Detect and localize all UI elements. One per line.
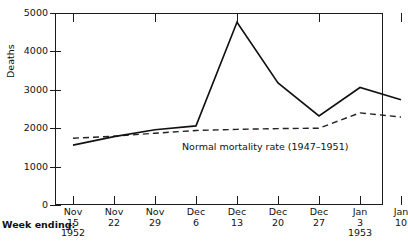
x-label-day: 10: [394, 218, 408, 229]
y-tick-0: [50, 205, 61, 206]
x-label-day: 27: [310, 218, 328, 229]
x-label-month: Nov: [105, 207, 124, 218]
normal-mortality-annotation: Normal mortality rate (1947–1951): [182, 141, 348, 152]
data-lines: [55, 13, 383, 205]
x-tick-label-4: Dec13: [228, 207, 246, 228]
x-label-year: 1952: [61, 228, 85, 239]
x-label-month: Nov: [61, 207, 85, 218]
x-tick-label-7: Jan31953: [348, 207, 372, 239]
y-tick-label-1000: 1000: [24, 162, 48, 172]
y-tick-label-2000: 2000: [24, 123, 48, 133]
x-label-year: 1953: [348, 228, 372, 239]
x-tick-top-8: [401, 13, 402, 22]
y-tick-label-4000: 4000: [24, 47, 48, 57]
plot-area: 010002000300040005000: [55, 13, 383, 205]
x-tick-label-8: Jan10: [394, 207, 408, 228]
x-label-day: 29: [146, 218, 165, 229]
x-label-day: 20: [269, 218, 287, 229]
x-tick-label-1: Nov22: [105, 207, 124, 228]
x-label-month: Dec: [187, 207, 205, 218]
x-label-month: Jan: [348, 207, 372, 218]
x-label-month: Dec: [310, 207, 328, 218]
x-tick-label-3: Dec6: [187, 207, 205, 228]
x-label-month: Dec: [228, 207, 246, 218]
x-tick-label-0: Nov151952: [61, 207, 85, 239]
x-tick-labels: Nov151952Nov22Nov29Dec6Dec13Dec20Dec27Ja…: [0, 207, 402, 247]
y-tick-label-3000: 3000: [24, 85, 48, 95]
x-tick-label-5: Dec20: [269, 207, 287, 228]
y-axis-title: Deaths: [5, 44, 16, 78]
x-label-day: 13: [228, 218, 246, 229]
x-tick-label-2: Nov29: [146, 207, 165, 228]
x-label-month: Nov: [146, 207, 165, 218]
x-label-month: Jan: [394, 207, 408, 218]
series-normal-mortality: [73, 113, 401, 138]
x-label-day: 22: [105, 218, 124, 229]
x-label-day: 6: [187, 218, 205, 229]
series-deaths: [73, 22, 401, 145]
y-tick-label-5000: 5000: [24, 8, 48, 18]
x-label-month: Dec: [269, 207, 287, 218]
x-tick-bottom-8: [401, 196, 402, 205]
x-tick-label-6: Dec27: [310, 207, 328, 228]
